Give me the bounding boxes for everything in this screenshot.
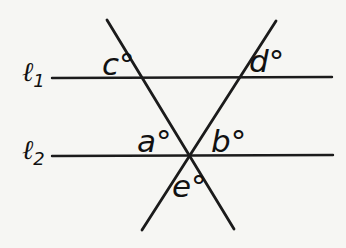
angle-label-a: a° (137, 123, 172, 159)
line-label-l2-subscript: 2 (33, 148, 44, 169)
line-label-l2-symbol: ℓ (22, 134, 34, 165)
parallel-line-l1 (52, 77, 332, 78)
line-label-l1-subscript: 1 (33, 70, 44, 91)
angle-label-d: d° (249, 43, 284, 79)
geometry-diagram: ℓ1ℓ2c°d°a°b°e° (0, 0, 346, 248)
line-label-l1-symbol: ℓ (22, 56, 34, 87)
parallel-lines-transversal-figure: ℓ1ℓ2c°d°a°b°e° (0, 0, 346, 248)
figure-background (0, 0, 346, 248)
angle-label-b: b° (211, 123, 246, 159)
angle-label-c: c° (102, 46, 135, 82)
parallel-line-l2 (52, 155, 333, 156)
angle-label-e: e° (172, 168, 207, 204)
